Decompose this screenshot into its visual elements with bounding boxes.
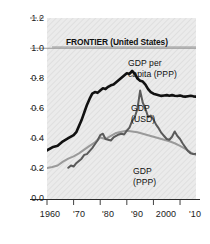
- x-tick-label-2000: 2000: [150, 209, 182, 219]
- gdp-per-capita-annotation-line1: GDP per: [128, 58, 162, 68]
- x-tick-label-1960: 1960: [34, 209, 66, 219]
- gdp-usd-annotation-line1: GDP: [131, 103, 150, 113]
- gdp-usd-annotation-line2: (USD): [131, 114, 155, 124]
- y-tick-label-0-6: 0.6: [22, 103, 44, 113]
- y-tick-label-0-8: 0.8: [22, 73, 44, 83]
- x-tick-label-90: '90: [124, 209, 150, 219]
- y-tick-label-0-2: 0.2: [22, 163, 44, 173]
- x-tick-label-80: '80: [95, 209, 121, 219]
- gdp-per-capita-annotation-line2: capita (PPP): [128, 69, 177, 79]
- frontier-annotation: FRONTIER (United States): [66, 37, 168, 48]
- x-axis-ticks: [47, 200, 180, 205]
- gdp-ppp-annotation: GDP (PPP): [133, 166, 156, 187]
- gdp-ppp-annotation-line1: GDP: [133, 166, 152, 176]
- x-tick-label-70: '70: [66, 209, 92, 219]
- y-tick-label-0-0: 0.0: [22, 193, 44, 203]
- gdp-usd-annotation: GDP (USD): [131, 103, 155, 124]
- gdp-per-capita-annotation: GDP per capita (PPP): [128, 58, 177, 79]
- y-tick-label-1-2: 1.2: [22, 13, 44, 23]
- x-tick-label-10: '10: [182, 209, 208, 219]
- gdp-ppp-annotation-line2: (PPP): [133, 177, 156, 187]
- y-tick-label-1-0: 1.0: [22, 43, 44, 53]
- y-tick-label-0-4: 0.4: [22, 133, 44, 143]
- chart-figure: 1.2 1.0 0.8 0.6 0.4 0.2 0.0 1960 '70 '80…: [0, 0, 210, 244]
